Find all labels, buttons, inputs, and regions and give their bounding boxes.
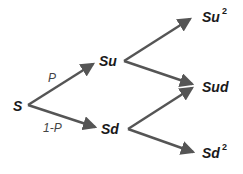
node-sud-base: Sud xyxy=(202,79,228,95)
node-su: Su xyxy=(99,54,117,68)
node-su-base: Su xyxy=(99,53,117,69)
node-sd-squared: Sd2 xyxy=(202,146,227,160)
edge-su-to-sud-arrow xyxy=(124,61,192,84)
node-s: S xyxy=(13,99,22,113)
node-sd: Sd xyxy=(101,122,119,136)
edge-sd-to-sud-arrow xyxy=(128,88,192,129)
edge-s-to-su-arrow xyxy=(28,64,93,105)
node-su-squared-exponent: 2 xyxy=(222,6,227,16)
node-sd-squared-exponent: 2 xyxy=(222,142,227,152)
node-su-squared-base: Su xyxy=(202,9,220,25)
node-su-squared: Su2 xyxy=(202,10,227,24)
edge-label-down-probability: 1-P xyxy=(43,122,62,134)
node-sud: Sud xyxy=(202,80,228,94)
edge-sd-to-sd2-arrow xyxy=(128,129,193,152)
node-sd-squared-base: Sd xyxy=(202,145,220,161)
node-s-base: S xyxy=(13,98,22,114)
node-sd-base: Sd xyxy=(101,121,119,137)
edge-su-to-su2-arrow xyxy=(124,19,190,61)
edge-label-up-probability: P xyxy=(48,72,56,84)
